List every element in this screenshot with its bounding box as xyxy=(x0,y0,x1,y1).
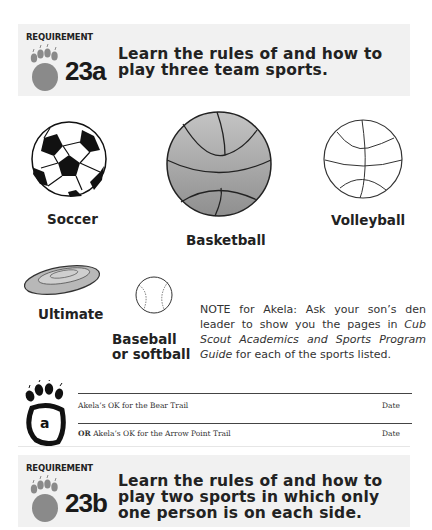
signature-line-arrow-point-trail[interactable] xyxy=(78,423,412,424)
baseball-icon xyxy=(134,275,174,315)
flying-disc-icon xyxy=(22,262,102,298)
soccer-ball-icon xyxy=(30,120,108,198)
requirement-label: REQUIREMENT xyxy=(26,32,93,42)
sport-label-basketball: Basketball xyxy=(186,232,266,248)
requirement-text: Learn the rules of and how to play two s… xyxy=(118,473,408,521)
note-prefix: NOTE for Akela: Ask your son’s den leade… xyxy=(200,303,426,331)
note-for-akela: NOTE for Akela: Ask your son’s den leade… xyxy=(200,302,426,362)
sport-label-baseball: Baseball or softball xyxy=(112,332,196,362)
requirement-23a-box: REQUIREMENT 23a Learn the rules of and h… xyxy=(18,24,410,96)
requirement-text: Learn the rules of and how to play three… xyxy=(118,46,408,78)
date-label-bear-trail: Date xyxy=(382,401,400,410)
bear-paw-icon xyxy=(28,44,62,92)
volleyball-icon xyxy=(322,118,404,200)
bear-paw-icon xyxy=(28,475,62,523)
requirement-23b-box: REQUIREMENT 23b Learn the rules of and h… xyxy=(18,455,410,527)
signoff-bear-trail-label: Akela’s OK for the Bear Trail xyxy=(78,401,188,410)
requirement-number: 23b xyxy=(65,488,107,519)
requirement-label: REQUIREMENT xyxy=(26,463,93,473)
divider xyxy=(18,446,410,447)
sport-label-volleyball: Volleyball xyxy=(331,212,405,228)
date-label-arrow-point: Date xyxy=(382,429,400,438)
bear-paw-signoff-icon: a xyxy=(18,380,70,446)
basketball-icon xyxy=(165,110,273,218)
sport-label-ultimate: Ultimate xyxy=(38,306,103,322)
signature-line-bear-trail[interactable] xyxy=(78,393,412,394)
sport-label-soccer: Soccer xyxy=(47,211,98,227)
or-label: OR xyxy=(78,429,91,438)
requirement-number: 23a xyxy=(65,56,105,87)
signoff-arrow-point-label: OR Akela’s OK for the Arrow Point Trail xyxy=(78,429,231,438)
svg-text:a: a xyxy=(40,415,49,431)
note-suffix: for each of the sports listed. xyxy=(232,348,391,361)
